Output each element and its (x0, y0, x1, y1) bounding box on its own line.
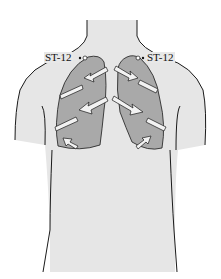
st12-left-marker (83, 56, 87, 60)
st12-right-label: ST-12 (146, 52, 175, 63)
st12-right-dot (142, 57, 144, 59)
st12-right-marker (136, 56, 140, 60)
st12-left-label: ST-12 (44, 52, 73, 63)
st12-left-dot (79, 57, 81, 59)
torso-lung-diagram (0, 0, 221, 279)
